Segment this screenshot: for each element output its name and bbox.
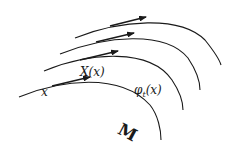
- vector-field-label: X(x): [80, 66, 105, 78]
- flow-map-label: φt(x): [134, 84, 162, 99]
- flow-curve-4: [75, 23, 221, 65]
- point-x-label: x: [41, 86, 48, 98]
- flow-curve-3-tangent-arrow-icon: [96, 33, 134, 42]
- flow-diagram: x X(x) φt(x) M: [0, 0, 233, 159]
- flow-curve-2-tangent-arrow-icon: [80, 51, 118, 60]
- flow-arg: (x): [146, 83, 162, 97]
